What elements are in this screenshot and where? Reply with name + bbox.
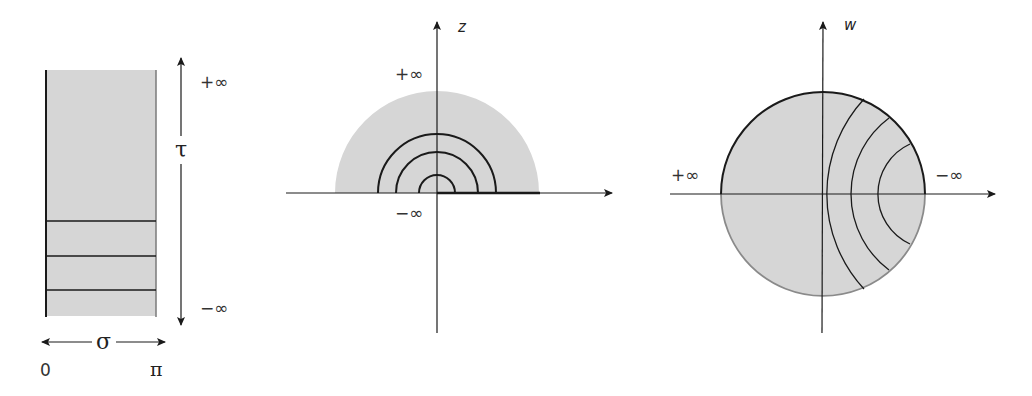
z-minus-inf-label: −∞	[395, 203, 423, 223]
z-plus-inf-label: +∞	[395, 64, 423, 84]
sigma-pi-label: π	[150, 358, 163, 380]
sigma-zero-label: 0	[40, 360, 51, 380]
z-plane-panel: z +∞ −∞	[286, 18, 612, 333]
z-axis-label: z	[457, 18, 467, 36]
w-minus-inf-label: −∞	[935, 165, 963, 185]
strip-region	[46, 70, 156, 316]
strip-minus-inf-label: −∞	[200, 298, 228, 318]
tau-label: τ	[175, 137, 187, 162]
w-plus-inf-label: +∞	[671, 165, 699, 185]
w-axis-label: w	[844, 16, 857, 34]
strip-plus-inf-label: +∞	[200, 72, 228, 92]
w-plane-panel: w +∞ −∞	[670, 16, 995, 333]
sigma-label: σ	[96, 329, 111, 354]
strip-panel: τ +∞ −∞ σ 0 π	[40, 58, 228, 380]
conformal-map-diagram: τ +∞ −∞ σ 0 π z +∞ −∞ w +∞ −∞	[0, 0, 1032, 396]
